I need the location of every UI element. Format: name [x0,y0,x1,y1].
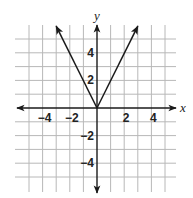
y-tick-label: 2 [87,73,94,87]
y-tick-label: −4 [80,156,94,170]
x-tick-label: 4 [150,111,157,125]
left-ray [56,26,97,108]
y-tick-label: 4 [87,46,94,60]
right-ray [97,26,138,108]
axes [17,25,176,193]
x-axis-label: x [179,100,186,115]
x-tick-label: 2 [123,111,130,125]
y-tick-label: −2 [80,129,94,143]
coordinate-plane: −4−22442−2−4 x y [0,0,193,198]
x-tick-label: −4 [38,111,52,125]
x-tick-label: −2 [65,111,79,125]
y-axis-label: y [92,8,100,23]
